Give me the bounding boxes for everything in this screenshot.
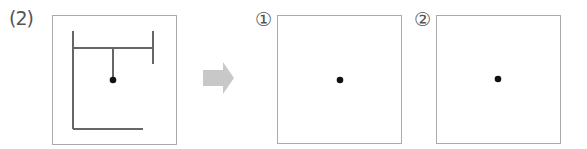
center-dot-icon xyxy=(495,76,502,83)
answer-dots xyxy=(0,0,587,149)
center-dot-icon xyxy=(337,77,344,84)
